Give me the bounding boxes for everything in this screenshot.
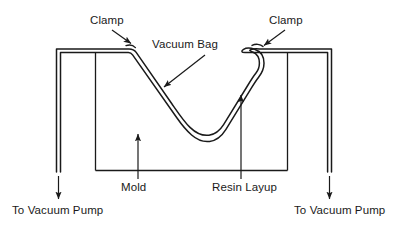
clamp-left-leader xyxy=(112,30,131,44)
clamp-right-leader xyxy=(264,30,285,46)
callout-arrows xyxy=(138,95,241,179)
clamp-left-detail xyxy=(126,45,135,48)
mold-body xyxy=(96,53,288,171)
label-to-vacuum-pump-right: To Vacuum Pump xyxy=(294,204,385,217)
vacuum-bag-leader xyxy=(164,55,205,87)
label-clamp-right: Clamp xyxy=(269,14,303,27)
label-resin-layup: Resin Layup xyxy=(212,181,277,194)
label-to-vacuum-pump-left: To Vacuum Pump xyxy=(12,204,103,217)
clamp-right-detail xyxy=(252,44,263,46)
vacuum-flow-arrows xyxy=(59,176,330,199)
label-mold: Mold xyxy=(121,181,146,194)
label-vacuum-bag: Vacuum Bag xyxy=(152,38,218,51)
diagram-canvas xyxy=(0,0,404,234)
label-clamp-left: Clamp xyxy=(90,14,124,27)
vacuum-bag-outer-line xyxy=(57,49,332,172)
vacuum-bag-molding-diagram: Clamp Clamp Vacuum Bag Mold Resin Layup … xyxy=(0,0,404,234)
